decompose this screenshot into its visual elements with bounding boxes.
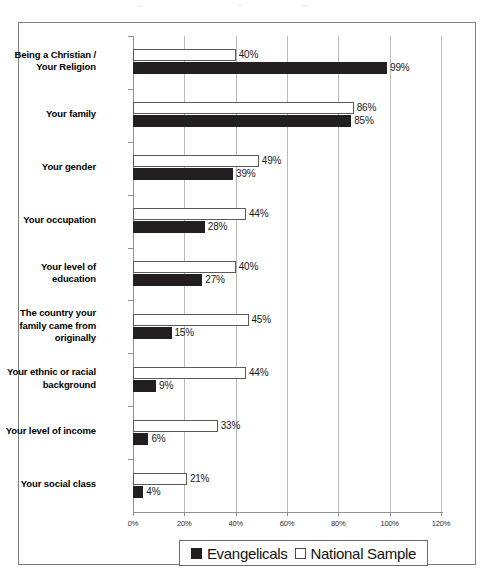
bar-value-label: 45%: [252, 314, 271, 326]
bar-evangelicals: [133, 380, 156, 392]
bar-national-sample: [133, 367, 246, 379]
category-axis-tick: [128, 406, 133, 407]
bar-value-label: 44%: [249, 208, 268, 220]
category-axis-tick: [128, 300, 133, 301]
category-label: Your level ofeducation: [0, 261, 96, 286]
category-label-line: Your level of: [0, 261, 96, 274]
category-label-line: Your family: [0, 108, 96, 121]
bar-evangelicals: [133, 274, 202, 286]
bar-evangelicals: [133, 115, 351, 127]
chart-frame: 0%20%40%60%80%100%120%Being a Christian …: [18, 22, 476, 565]
bar-value-label: 86%: [357, 102, 376, 114]
bar-value-label: 40%: [239, 261, 258, 273]
category-label-line: The country your: [0, 307, 96, 320]
category-label-line: education: [0, 273, 96, 286]
x-axis-tick-label: 40%: [228, 519, 242, 528]
bar-national-sample: [133, 261, 236, 273]
category-label: Your occupation: [0, 214, 96, 227]
category-axis-tick: [128, 142, 133, 143]
bar-national-sample: [133, 314, 249, 326]
bar-value-label: 44%: [249, 367, 268, 379]
x-axis-tick-label: 0%: [128, 519, 138, 528]
chart-legend: Evangelicals National Sample: [179, 540, 428, 566]
x-axis-tick: [441, 512, 442, 516]
category-axis-tick: [128, 36, 133, 37]
category-axis-tick: [128, 248, 133, 249]
x-axis-tick: [236, 512, 237, 516]
category-label: Being a Christian /Your Religion: [0, 49, 96, 74]
x-gridline: [390, 36, 391, 512]
category-label: The country yourfamily came fromoriginal…: [0, 307, 96, 345]
category-label-line: Your level of income: [0, 425, 96, 438]
bar-national-sample: [133, 102, 354, 114]
x-axis-tick: [338, 512, 339, 516]
x-gridline: [441, 36, 442, 512]
x-axis-tick-label: 120%: [432, 519, 450, 528]
legend-swatch-open-white-square-icon: [295, 548, 306, 559]
category-label-line: originally: [0, 332, 96, 345]
bar-national-sample: [133, 208, 246, 220]
category-label-line: Your occupation: [0, 214, 96, 227]
x-axis-tick: [287, 512, 288, 516]
bar-national-sample: [133, 420, 218, 432]
bar-value-label: 39%: [236, 168, 255, 180]
category-axis-tick: [128, 89, 133, 90]
category-label: Your social class: [0, 478, 96, 491]
x-axis-tick: [390, 512, 391, 516]
legend-swatch-filled-black-square-icon: [191, 548, 202, 559]
category-axis-tick: [128, 195, 133, 196]
bar-value-label: 33%: [221, 420, 240, 432]
category-label-line: Your gender: [0, 161, 96, 174]
category-label-line: family came from: [0, 320, 96, 333]
legend-label-evangelicals: Evangelicals: [207, 545, 288, 562]
category-axis-tick: [128, 353, 133, 354]
bar-value-label: 6%: [151, 433, 165, 445]
category-label-line: background: [0, 379, 96, 392]
category-label-line: Your social class: [0, 478, 96, 491]
bar-value-label: 99%: [390, 62, 409, 74]
bar-value-label: 40%: [239, 49, 258, 61]
category-label: Your family: [0, 108, 96, 121]
legend-label-national-sample: National Sample: [311, 545, 417, 562]
category-label-line: Being a Christian /: [0, 49, 96, 62]
bar-value-label: 27%: [205, 274, 224, 286]
category-label: Your level of income: [0, 425, 96, 438]
legend-item-evangelicals[interactable]: Evangelicals: [191, 545, 288, 562]
bar-value-label: 85%: [354, 115, 373, 127]
category-label-line: Your Religion: [0, 61, 96, 74]
bar-evangelicals: [133, 433, 148, 445]
bar-national-sample: [133, 49, 236, 61]
x-axis-tick: [133, 512, 134, 516]
bar-evangelicals: [133, 62, 387, 74]
bar-value-label: 49%: [262, 155, 281, 167]
x-axis-tick: [184, 512, 185, 516]
bar-evangelicals: [133, 327, 172, 339]
bar-evangelicals: [133, 486, 143, 498]
bar-value-label: 9%: [159, 380, 173, 392]
bar-value-label: 4%: [146, 486, 160, 498]
x-axis-tick-label: 20%: [177, 519, 191, 528]
bar-evangelicals: [133, 168, 233, 180]
bar-national-sample: [133, 155, 259, 167]
bar-value-label: 28%: [208, 221, 227, 233]
scan-artifact-top: [130, 2, 370, 10]
x-axis-tick-label: 60%: [280, 519, 294, 528]
x-axis-tick-label: 100%: [380, 519, 398, 528]
bar-value-label: 15%: [175, 327, 194, 339]
category-label: Your ethnic or racialbackground: [0, 366, 96, 391]
category-label: Your gender: [0, 161, 96, 174]
category-axis-tick: [128, 459, 133, 460]
category-label-line: Your ethnic or racial: [0, 366, 96, 379]
bar-national-sample: [133, 473, 187, 485]
bar-value-label: 21%: [190, 473, 209, 485]
bar-evangelicals: [133, 221, 205, 233]
x-axis-line: [133, 512, 443, 513]
legend-item-national-sample[interactable]: National Sample: [295, 545, 417, 562]
x-axis-tick-label: 80%: [331, 519, 345, 528]
